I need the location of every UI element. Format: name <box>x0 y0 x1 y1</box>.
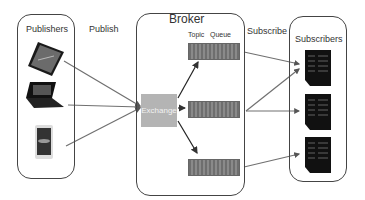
server-icon <box>302 92 334 132</box>
publish-label: Publish <box>89 24 119 34</box>
laptop-icon <box>24 80 66 110</box>
exchange-node: Exchange <box>141 94 177 127</box>
smartphone-icon <box>34 124 54 160</box>
topic-queue-3 <box>188 159 240 176</box>
topic-queue-1 <box>188 43 240 60</box>
queue-label: Queue <box>210 31 231 38</box>
topic-queue-2 <box>188 101 240 118</box>
broker-title: Broker <box>169 12 204 26</box>
publishers-title: Publishers <box>26 24 68 34</box>
subscribe-label: Subscribe <box>247 26 287 36</box>
subscribers-title: Subscribers <box>295 34 343 44</box>
topic-label: Topic <box>188 31 204 38</box>
server-icon <box>302 135 334 175</box>
server-icon <box>302 48 334 88</box>
tablet-icon <box>26 40 66 78</box>
